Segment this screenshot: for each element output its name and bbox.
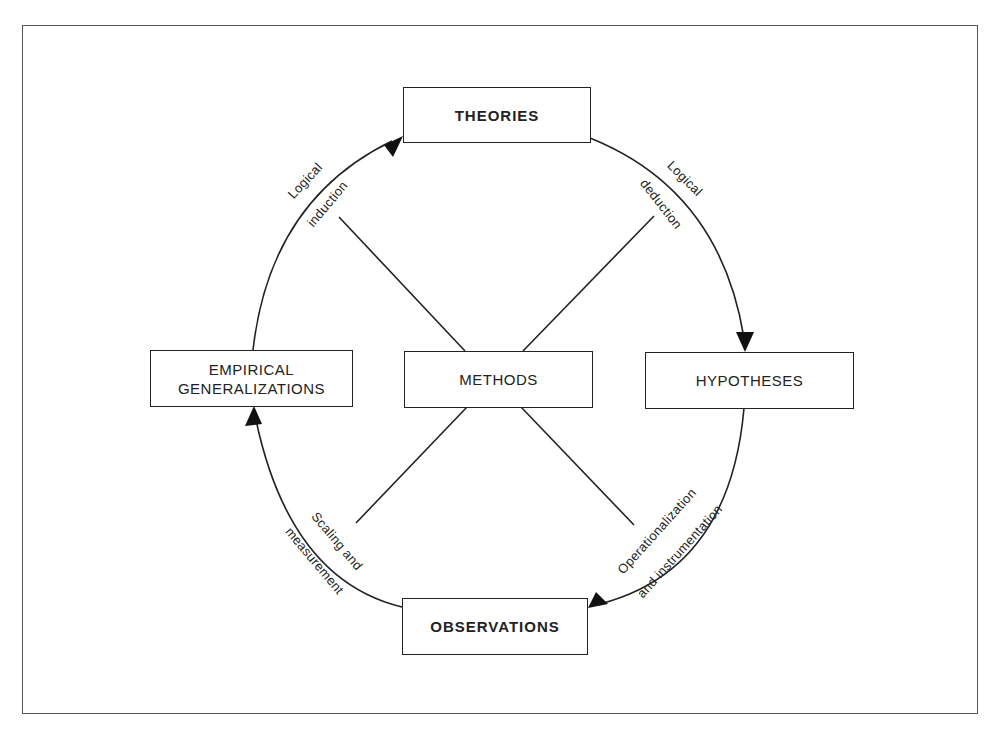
node-hypotheses: HYPOTHESES — [645, 352, 854, 409]
node-empirical-label-2: GENERALIZATIONS — [178, 379, 325, 398]
spoke-top-right — [523, 216, 654, 351]
arrow-to-empirical-icon — [245, 406, 262, 426]
node-methods: METHODS — [404, 351, 593, 408]
node-theories-label: THEORIES — [455, 106, 540, 125]
spoke-bottom-left — [356, 407, 467, 523]
spoke-bottom-right — [521, 407, 634, 525]
arrow-to-observations-icon — [588, 592, 608, 608]
node-observations-label: OBSERVATIONS — [430, 617, 560, 636]
node-empirical-generalizations: EMPIRICAL GENERALIZATIONS — [150, 350, 353, 407]
arrow-to-hypotheses-icon — [736, 332, 754, 352]
node-theories: THEORIES — [403, 87, 591, 143]
node-empirical-label-1: EMPIRICAL — [209, 360, 294, 379]
node-methods-label: METHODS — [459, 370, 538, 389]
spoke-top-left — [339, 217, 465, 351]
node-hypotheses-label: HYPOTHESES — [696, 371, 804, 390]
node-observations: OBSERVATIONS — [402, 598, 588, 655]
arrow-to-theories-icon — [384, 136, 403, 157]
